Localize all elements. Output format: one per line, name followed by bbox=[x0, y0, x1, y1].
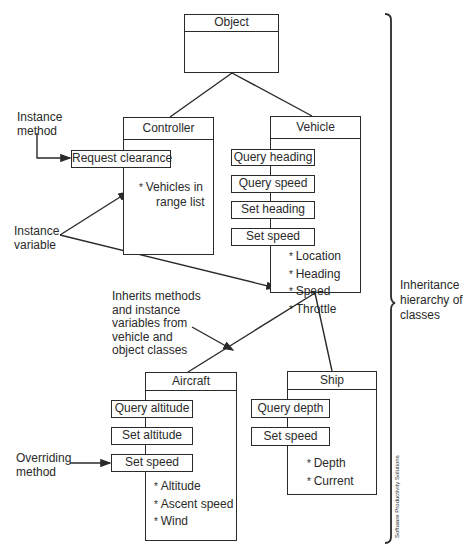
variable-heading: Heading bbox=[289, 266, 341, 284]
label-inherits-line5: object classes bbox=[112, 344, 201, 358]
label-instance-variable-line1: Instance bbox=[14, 224, 59, 238]
variable-vehicles-in-range: Vehicles in bbox=[139, 180, 205, 195]
class-aircraft-name: Aircraft bbox=[146, 373, 236, 391]
method-query-depth: Query depth bbox=[251, 399, 330, 418]
method-request-clearance: Request clearance bbox=[71, 150, 171, 168]
method-set-altitude: Set altitude bbox=[111, 427, 193, 445]
label-hierarchy-line1: Inheritance bbox=[400, 278, 463, 293]
label-instance-method-line1: Instance bbox=[17, 110, 62, 124]
class-vehicle-name: Vehicle bbox=[271, 117, 360, 139]
method-query-altitude: Query altitude bbox=[111, 400, 193, 418]
label-inherits-line3: variables from bbox=[112, 317, 201, 331]
label-overriding-method: Overriding method bbox=[16, 451, 71, 479]
variable-wind: Wind bbox=[154, 513, 233, 531]
label-instance-variable: Instance variable bbox=[14, 224, 59, 252]
label-inherits-line4: vehicle and bbox=[112, 331, 201, 345]
variable-speed: Speed bbox=[289, 283, 341, 301]
method-query-heading: Query heading bbox=[231, 149, 315, 166]
variable-current: Current bbox=[307, 473, 354, 491]
label-overriding-method-line1: Overriding bbox=[16, 451, 71, 465]
method-ship-set-speed: Set speed bbox=[251, 427, 330, 446]
method-set-speed: Set speed bbox=[231, 228, 315, 246]
label-hierarchy-line3: classes bbox=[400, 308, 463, 323]
method-query-speed: Query speed bbox=[231, 175, 315, 193]
method-set-speed-override: Set speed bbox=[111, 454, 193, 472]
label-inherits: Inherits methods and instance variables … bbox=[112, 290, 201, 358]
label-instance-method: Instance method bbox=[17, 110, 62, 138]
vehicle-variables: Location Heading Speed Throttle bbox=[289, 248, 341, 318]
controller-variables: Vehicles in range list bbox=[139, 180, 205, 210]
variable-location: Location bbox=[289, 248, 341, 266]
credit-text: Software Productivity Solutions bbox=[394, 455, 400, 538]
method-set-heading: Set heading bbox=[231, 201, 315, 219]
variable-altitude: Altitude bbox=[154, 478, 233, 496]
class-object-name: Object bbox=[185, 15, 278, 32]
variable-ascent-speed: Ascent speed bbox=[154, 496, 233, 514]
variable-throttle: Throttle bbox=[289, 301, 341, 319]
label-inherits-line2: and instance bbox=[112, 304, 201, 318]
label-hierarchy-line2: hierarchy of bbox=[400, 293, 463, 308]
label-inherits-line1: Inherits methods bbox=[112, 290, 201, 304]
label-inheritance-hierarchy: Inheritance hierarchy of classes bbox=[400, 278, 463, 323]
class-ship-name: Ship bbox=[288, 372, 376, 390]
class-object: Object bbox=[184, 14, 279, 73]
label-overriding-method-line2: method bbox=[16, 465, 71, 479]
class-controller-name: Controller bbox=[124, 118, 213, 140]
label-instance-variable-line2: variable bbox=[14, 238, 59, 252]
variable-vehicles-in-range-cont: range list bbox=[139, 195, 205, 209]
aircraft-variables: Altitude Ascent speed Wind bbox=[154, 478, 233, 531]
ship-variables: Depth Current bbox=[307, 455, 354, 490]
variable-depth: Depth bbox=[307, 455, 354, 473]
label-instance-method-line2: method bbox=[17, 124, 62, 138]
